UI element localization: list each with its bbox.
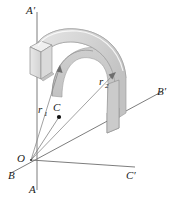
label-a: A xyxy=(28,183,36,195)
label-r1-base: r xyxy=(38,103,43,115)
label-r1-group: r 1 xyxy=(38,103,48,118)
leader-line-o-to-c xyxy=(31,117,59,160)
label-r2-subscript: 2 xyxy=(105,82,109,90)
figure-container: A′ A B B′ C C′ O r 1 r 2 xyxy=(0,0,174,198)
label-r1-subscript: 1 xyxy=(44,110,48,118)
label-c: C xyxy=(53,101,61,113)
label-o: O xyxy=(17,152,25,164)
arch-left-end-face xyxy=(30,47,41,79)
axis-line-bb-prime xyxy=(11,91,163,173)
axis-line-cc-prime xyxy=(31,160,135,167)
label-a-prime: A′ xyxy=(25,4,36,16)
label-r2-base: r xyxy=(99,75,104,87)
geometry-diagram: A′ A B B′ C C′ O r 1 r 2 xyxy=(0,0,174,198)
label-c-prime: C′ xyxy=(126,169,136,181)
label-b-prime: B′ xyxy=(157,85,167,97)
point-c-dot xyxy=(57,115,61,119)
arch-right-leg-body xyxy=(107,80,119,133)
label-b: B xyxy=(8,169,15,181)
point-o-dot xyxy=(30,159,32,161)
